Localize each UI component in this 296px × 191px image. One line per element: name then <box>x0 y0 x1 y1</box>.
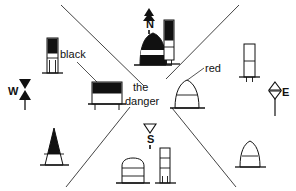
buoy-sw-conical <box>40 124 69 165</box>
cardinal-label-north: N <box>146 18 154 30</box>
center-label-line2: danger <box>125 95 159 107</box>
buoy-east-pillar <box>239 44 260 82</box>
buoy-se-conical <box>235 141 266 167</box>
annotation-red: red <box>205 62 221 74</box>
west-topmark-icon <box>19 79 31 110</box>
sector-line-nw <box>61 5 144 86</box>
east-topmark-icon <box>269 82 281 116</box>
leader-line-red <box>186 68 204 81</box>
cardinal-label-east: E <box>282 86 289 98</box>
sector-line-sw <box>66 107 130 187</box>
cardinal-mark-diagram: N S E W black red the danger <box>0 0 296 191</box>
buoy-south-can <box>116 158 150 183</box>
cardinal-label-south: S <box>147 133 154 145</box>
cardinal-label-west: W <box>8 85 18 97</box>
sector-line-se <box>172 108 236 187</box>
buoy-center-conical <box>170 80 205 108</box>
leader-line-black <box>77 62 98 83</box>
sector-line-ne <box>166 5 239 79</box>
annotation-black: black <box>60 48 86 60</box>
buoy-south-pillar <box>155 148 176 183</box>
center-label-line1: the <box>133 81 148 93</box>
buoy-nw-can <box>88 82 126 110</box>
